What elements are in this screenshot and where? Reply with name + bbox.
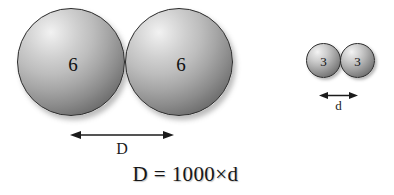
- sphere-small-right-label: 3: [354, 55, 361, 68]
- sphere-large-right-label: 6: [176, 55, 186, 74]
- equation-text: D = 1000×d: [118, 162, 253, 187]
- dimension-label-d: d: [319, 99, 358, 112]
- dimension-label-D: D: [70, 141, 174, 157]
- dimension-arrow-D: [70, 130, 174, 140]
- sphere-small-left: 3: [306, 43, 341, 78]
- sphere-large-left: 6: [17, 8, 125, 116]
- sphere-large-right: 6: [125, 8, 233, 116]
- double-headed-arrow-icon: [70, 130, 174, 140]
- sphere-small-right: 3: [340, 43, 375, 78]
- sphere-large-left-label: 6: [68, 55, 78, 74]
- figure-canvas: 6 6 3 3 D d D = 1000×d: [0, 0, 394, 195]
- sphere-small-left-label: 3: [320, 55, 327, 68]
